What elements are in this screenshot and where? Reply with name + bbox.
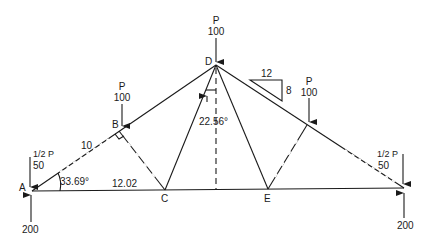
node-label-A: A (19, 183, 26, 193)
node-label-E: E (264, 194, 271, 204)
angle-D-label: 22.56° (199, 117, 228, 127)
bottom-chord (32, 188, 404, 191)
reaction-right-value: 200 (397, 221, 414, 231)
load-left-panel-name: P (110, 81, 134, 92)
load-right-end: 1/2 P 50 (377, 148, 398, 172)
load-apex-name: P (204, 15, 228, 26)
slope-run-label: 12 (261, 69, 272, 79)
load-right-panel: P 100 (297, 76, 321, 98)
load-left-panel: P 100 (110, 81, 134, 103)
reaction-left-value: 200 (22, 225, 39, 235)
load-left-panel-value: 100 (110, 92, 134, 103)
load-right-panel-name: P (297, 76, 321, 87)
node-label-C: C (161, 194, 168, 204)
load-left-end-value: 50 (33, 160, 54, 172)
load-apex-value: 100 (204, 26, 228, 37)
load-left-end: 1/2 P 50 (33, 148, 54, 172)
web-C-D (165, 65, 216, 190)
load-apex: P 100 (204, 15, 228, 37)
load-right-end-value: 50 (377, 160, 398, 172)
bottom-chord-dimension: 12.02 (112, 179, 137, 189)
load-right-panel-value: 100 (297, 87, 321, 98)
top-chord-dimension: 10 (81, 141, 92, 151)
right-angle-mark-B (115, 134, 124, 139)
web-E-G (268, 125, 307, 189)
web-D-E (216, 65, 268, 189)
node-label-D: D (205, 57, 212, 67)
slope-rise-label: 8 (286, 86, 292, 96)
node-label-B: B (112, 120, 119, 130)
angle-A-label: 33.69° (60, 177, 89, 187)
load-left-end-name: 1/2 P (33, 148, 54, 160)
load-right-end-name: 1/2 P (377, 148, 398, 160)
